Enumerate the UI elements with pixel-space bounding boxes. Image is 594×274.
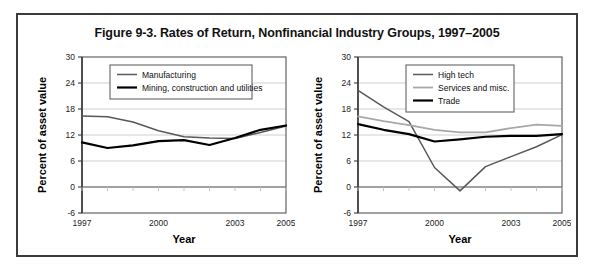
chart-panel-left: -606121824301997200020032005YearPercent … xyxy=(30,45,295,251)
y-axis-title: Percent of asset value xyxy=(36,77,48,193)
line-chart-left: -606121824301997200020032005YearPercent … xyxy=(30,45,295,251)
y-tick-label: 30 xyxy=(342,52,352,62)
x-tick-label: 2005 xyxy=(553,218,571,228)
x-tick-label: 2000 xyxy=(425,218,444,228)
y-tick-label: -6 xyxy=(343,208,351,218)
x-tick-label: 2003 xyxy=(226,218,245,228)
legend-label: Mining, construction and utilities xyxy=(142,83,262,93)
x-tick-label: 2005 xyxy=(277,218,295,228)
legend-label: Services and misc. xyxy=(438,83,509,93)
figure-title: Figure 9-3. Rates of Return, Nonfinancia… xyxy=(18,26,576,40)
line-chart-right: -606121824301997200020032005YearPercent … xyxy=(306,45,571,251)
chart-panel-right: -606121824301997200020032005YearPercent … xyxy=(306,45,571,251)
y-tick-label: -6 xyxy=(67,208,75,218)
x-tick-label: 2003 xyxy=(502,218,521,228)
y-tick-label: 30 xyxy=(66,52,76,62)
y-tick-label: 24 xyxy=(342,78,352,88)
y-tick-label: 18 xyxy=(66,104,76,114)
legend-label: High tech xyxy=(438,70,474,80)
y-axis-title: Percent of asset value xyxy=(312,77,324,193)
y-tick-label: 24 xyxy=(66,78,76,88)
x-tick-label: 2000 xyxy=(149,218,168,228)
legend-label: Trade xyxy=(438,96,460,106)
y-tick-label: 18 xyxy=(342,104,352,114)
x-axis-title: Year xyxy=(448,233,472,245)
y-tick-label: 6 xyxy=(70,156,75,166)
x-tick-label: 1997 xyxy=(349,218,368,228)
x-axis-title: Year xyxy=(172,233,196,245)
y-tick-label: 0 xyxy=(70,182,75,192)
y-tick-label: 0 xyxy=(346,182,351,192)
y-tick-label: 12 xyxy=(66,130,76,140)
legend-label: Manufacturing xyxy=(142,70,196,80)
y-tick-label: 12 xyxy=(342,130,352,140)
figure-frame: Figure 9-3. Rates of Return, Nonfinancia… xyxy=(16,13,578,257)
y-tick-label: 6 xyxy=(346,156,351,166)
x-tick-label: 1997 xyxy=(73,218,92,228)
